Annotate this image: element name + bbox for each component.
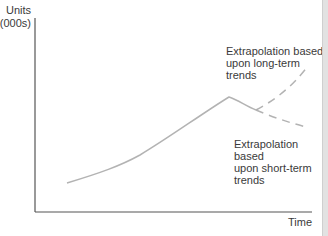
y-axis-label: Units (000s) [0, 4, 31, 30]
page-edge-scrollbar[interactable] [322, 0, 328, 236]
long-term-annotation-line1: Extrapolation based [226, 45, 328, 57]
short-term-extrapolation-line [256, 110, 306, 127]
short-term-annotation-line1: Extrapolation based [234, 138, 328, 162]
chart-canvas [0, 0, 328, 236]
x-axis-label: Time [288, 216, 312, 228]
short-term-annotation-line2: upon short-term trends [234, 162, 328, 186]
long-term-annotation-line2: upon long-term trends [226, 57, 328, 81]
y-axis-label-line2: (000s) [0, 17, 31, 30]
actual-trend-line [67, 97, 256, 183]
long-term-annotation: Extrapolation based upon long-term trend… [226, 45, 328, 81]
y-axis-label-line1: Units [0, 4, 31, 17]
short-term-annotation: Extrapolation based upon short-term tren… [234, 138, 328, 186]
